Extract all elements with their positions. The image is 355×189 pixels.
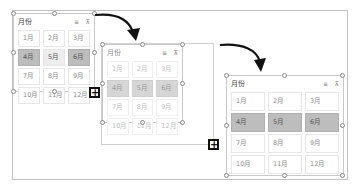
step-arrow-2 xyxy=(0,0,355,189)
arrow-curve xyxy=(220,45,260,62)
arrow-head xyxy=(254,58,266,72)
